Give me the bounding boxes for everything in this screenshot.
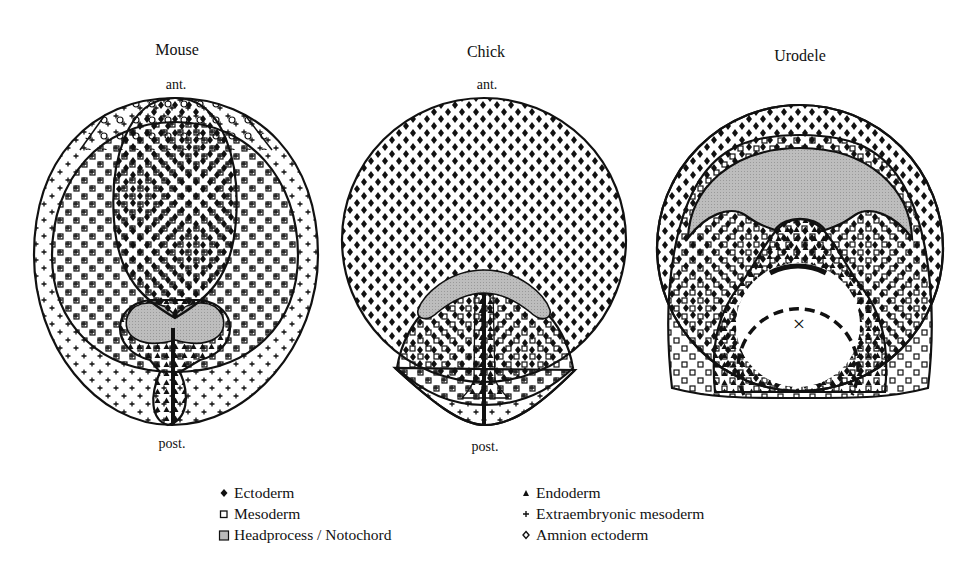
mouse-anterior-label: ant. xyxy=(166,78,187,92)
legend-right: Endoderm Extraembryonic mesoderm Amnion … xyxy=(520,482,704,545)
open-square-icon xyxy=(218,508,230,520)
mouse-diagram xyxy=(34,98,318,425)
legend-item-endoderm: Endoderm xyxy=(520,482,704,503)
mouse-posterior-label: post. xyxy=(159,437,186,451)
legend-item-amnion-ectoderm: Amnion ectoderm xyxy=(520,524,704,545)
chick-diagram xyxy=(342,98,626,425)
open-diamond-icon xyxy=(520,529,532,541)
plus-icon xyxy=(520,508,532,520)
chick-anterior-label: ant. xyxy=(477,78,498,92)
gray-square-icon xyxy=(218,529,230,541)
legend-item-mesoderm: Mesoderm xyxy=(218,503,392,524)
chick-posterior-label: post. xyxy=(472,440,499,454)
filled-triangle-icon xyxy=(520,487,532,499)
legend-item-extraembryonic-mesoderm: Extraembryonic mesoderm xyxy=(520,503,704,524)
mouse-title: Mouse xyxy=(155,42,199,58)
legend-item-ectoderm: Ectoderm xyxy=(218,482,392,503)
urodele-title: Urodele xyxy=(774,48,826,64)
filled-diamond-icon xyxy=(218,487,230,499)
chick-title: Chick xyxy=(467,44,505,60)
urodele-diagram xyxy=(657,105,943,398)
legend-left: Ectoderm Mesoderm Headprocess / Notochor… xyxy=(218,482,392,545)
urodele-center-marker: × xyxy=(793,313,805,335)
legend-item-headprocess: Headprocess / Notochord xyxy=(218,524,392,545)
